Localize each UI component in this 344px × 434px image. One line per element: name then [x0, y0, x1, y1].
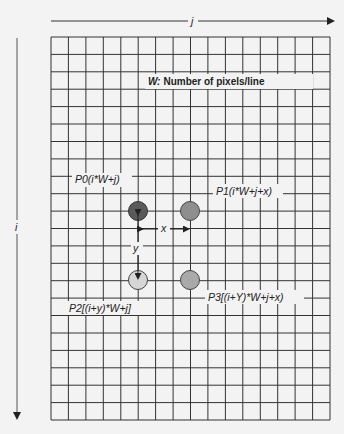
p2-label: P2[(i+y)*W+j]: [69, 302, 132, 314]
pixel-p1: [181, 202, 200, 221]
w-definition-label: W:Number of pixels/line: [148, 76, 265, 87]
i-axis-arrow: i: [12, 38, 22, 418]
pixel-p3: [181, 271, 200, 290]
pixel-grid: [51, 37, 330, 420]
x-offset-label: x: [160, 222, 167, 234]
pixel-grid-diagram: j i W:Number of pixels/line P0(i*W+j) P1…: [0, 0, 344, 434]
p1-label: P1(i*W+j+x): [216, 185, 272, 197]
p3-label: P3[(i+Y)*W+j+x): [208, 291, 284, 303]
p0-label: P0(i*W+j): [75, 173, 120, 185]
y-offset-arrow: y: [131, 214, 143, 278]
j-axis-arrow: j: [51, 14, 333, 28]
y-offset-label: y: [132, 242, 139, 254]
x-offset-arrow: x: [142, 222, 188, 235]
